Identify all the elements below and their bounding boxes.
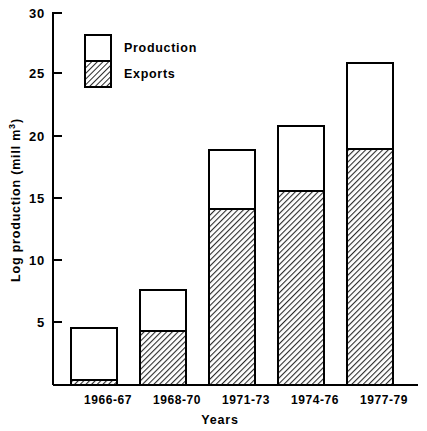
bar-group-1977-79[interactable] (347, 63, 393, 385)
legend-swatch-exports (85, 61, 111, 87)
bar-group-1974-76[interactable] (278, 126, 324, 385)
legend-swatch-production (85, 35, 111, 61)
bar-chart: 30 25 20 15 10 5 Log production (mill m3… (0, 0, 427, 431)
bar-exports-1971-73[interactable] (209, 209, 255, 385)
y-tick-label-30: 30 (29, 6, 45, 21)
legend-label-production: Production (124, 41, 197, 55)
legend-label-exports: Exports (124, 67, 175, 81)
y-tick-label-5: 5 (37, 315, 45, 330)
x-tick-label-4: 1974-76 (291, 393, 339, 407)
bar-group-1968-70[interactable] (140, 290, 186, 385)
x-tick-label-1: 1966-67 (84, 393, 132, 407)
y-tick-label-10: 10 (29, 253, 45, 268)
bar-exports-1974-76[interactable] (278, 191, 324, 385)
bar-exports-1966-67[interactable] (71, 380, 117, 385)
chart-container: 30 25 20 15 10 5 Log production (mill m3… (0, 0, 427, 431)
y-tick-label-20: 20 (29, 129, 45, 144)
x-axis-title: Years (201, 413, 238, 427)
x-tick-label-2: 1968-70 (153, 393, 201, 407)
y-axis-title: Log production (mill m3) (7, 118, 23, 282)
x-tick-label-3: 1971-73 (222, 393, 270, 407)
bar-group-1966-67[interactable] (71, 328, 117, 385)
bar-production-1966-67[interactable] (71, 328, 117, 385)
bar-exports-1968-70[interactable] (140, 331, 186, 385)
y-axis-title-main: Log production (mill m (9, 129, 23, 282)
y-tick-label-15: 15 (29, 191, 45, 206)
svg-text:Log production (mill m3): Log production (mill m3) (7, 118, 23, 282)
x-tick-label-5: 1977-79 (360, 393, 408, 407)
bar-group-1971-73[interactable] (209, 150, 255, 385)
bar-exports-1977-79[interactable] (347, 149, 393, 385)
y-axis-title-suffix: ) (9, 118, 23, 123)
y-tick-label-25: 25 (29, 66, 45, 81)
